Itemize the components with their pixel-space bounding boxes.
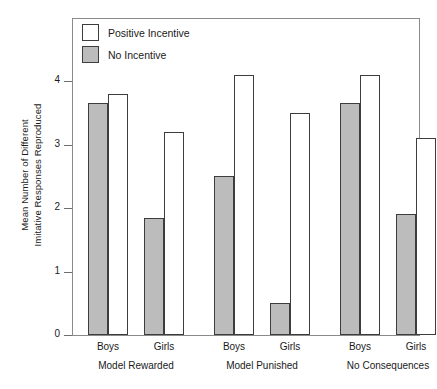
y-tick-mark — [64, 208, 72, 209]
bar — [234, 75, 254, 335]
legend-label: No Incentive — [108, 49, 166, 61]
y-tick-mark — [64, 81, 72, 82]
bar — [416, 138, 436, 335]
legend-item: No Incentive — [82, 46, 190, 63]
y-tick-mark — [64, 272, 72, 273]
y-tick-mark — [64, 145, 72, 146]
x-axis-subgroup-label: Boys — [349, 341, 371, 352]
x-axis-subgroup-label: Boys — [223, 341, 245, 352]
x-axis-subgroup-label: Girls — [406, 341, 427, 352]
chart-figure: Mean Number of Different Imitative Respo… — [0, 0, 437, 389]
y-tick-label: 0 — [34, 328, 60, 339]
y-axis-title: Mean Number of Different Imitative Respo… — [16, 50, 46, 300]
y-tick-label: 3 — [34, 138, 60, 149]
x-axis-group-label: No Consequences — [347, 360, 429, 371]
legend: Positive IncentiveNo Incentive — [82, 24, 190, 63]
y-tick-label: 2 — [34, 201, 60, 212]
bar — [360, 75, 380, 335]
bar — [108, 94, 128, 335]
bar — [340, 103, 360, 335]
y-tick-label: 1 — [34, 265, 60, 276]
y-axis-title-line-2: Imitative Responses Reproduced — [31, 104, 44, 247]
bar — [290, 113, 310, 335]
plot-area — [72, 18, 420, 336]
y-tick-label: 4 — [34, 74, 60, 85]
bar — [214, 176, 234, 335]
x-axis-group-label: Model Rewarded — [98, 360, 174, 371]
x-axis-subgroup-label: Girls — [280, 341, 301, 352]
x-axis-subgroup-label: Boys — [97, 341, 119, 352]
bar — [88, 103, 108, 335]
bar — [144, 218, 164, 335]
legend-swatch-gray — [82, 46, 99, 63]
legend-label: Positive Incentive — [108, 27, 190, 39]
x-axis-group-label: Model Punished — [226, 360, 298, 371]
y-tick-mark — [64, 335, 72, 336]
y-axis-title-line-1: Mean Number of Different — [18, 119, 31, 231]
bar — [396, 214, 416, 335]
bar — [270, 303, 290, 335]
bar — [164, 132, 184, 335]
x-axis-subgroup-label: Girls — [154, 341, 175, 352]
legend-item: Positive Incentive — [82, 24, 190, 41]
legend-swatch-white — [82, 24, 99, 41]
